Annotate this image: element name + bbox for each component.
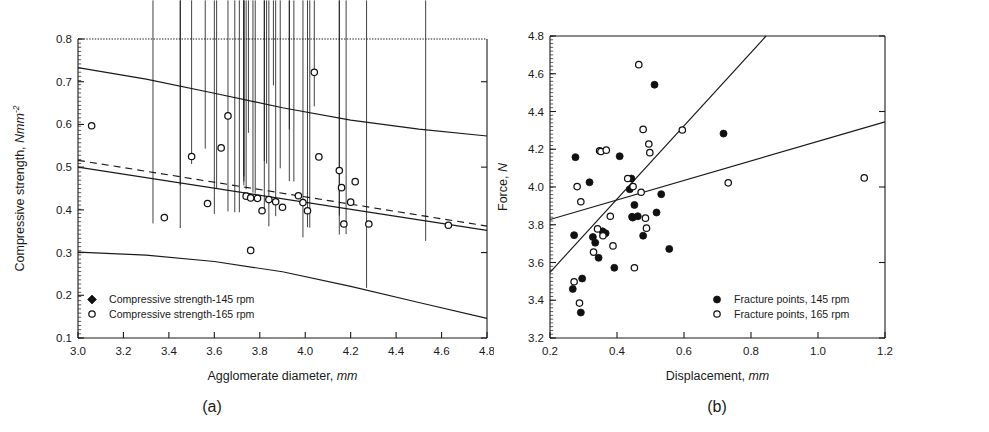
x-axis-title: Agglomerate diameter, mm: [207, 369, 357, 383]
y-tick-label: 3.4: [528, 294, 545, 306]
legend-marker: [89, 311, 95, 317]
data-point: [640, 232, 647, 239]
data-point: [341, 221, 347, 227]
legend-label: Compressive strength-165 rpm: [109, 308, 255, 320]
y-axis-title: Force, N: [496, 162, 510, 211]
legend-label: Compressive strength-145 rpm: [109, 293, 255, 305]
x-tick-label: 0.4: [609, 345, 626, 357]
x-axis-title: Displacement, mm: [666, 369, 770, 383]
data-point: [336, 167, 342, 173]
compressive-strength-scatter-chart: 0.10.20.30.40.50.60.70.83.03.23.43.63.84…: [0, 0, 494, 432]
x-tick-label: 0.6: [676, 345, 692, 357]
data-point: [300, 199, 306, 205]
y-tick-label: 0.3: [56, 247, 72, 259]
data-point: [247, 195, 253, 201]
regression-165rpm-shallow: [550, 122, 885, 220]
x-tick-label: 1.2: [877, 345, 893, 357]
y-tick-label: 0.7: [56, 76, 72, 88]
figure-container: 0.10.20.30.40.50.60.70.83.03.23.43.63.84…: [0, 0, 989, 432]
data-point: [679, 127, 685, 133]
x-tick-label: 3.8: [252, 345, 268, 357]
data-point: [272, 199, 278, 205]
y-tick-label: 0.8: [56, 33, 72, 45]
data-point: [266, 196, 272, 202]
legend-label: Fracture points, 145 rpm: [734, 293, 850, 305]
data-point: [666, 245, 673, 252]
svg-text:Force, N: Force, N: [496, 162, 510, 211]
data-point: [88, 123, 94, 129]
data-point: [586, 179, 593, 186]
data-point: [611, 264, 618, 271]
data-point: [577, 309, 584, 316]
y-tick-label: 3.6: [528, 257, 544, 269]
data-point: [603, 147, 609, 153]
data-point: [653, 209, 660, 216]
panel-a-caption: (a): [202, 398, 222, 415]
data-point: [720, 130, 727, 137]
chart-panel-b: 3.23.43.63.84.04.24.44.64.80.20.40.60.81…: [495, 0, 989, 432]
data-point: [571, 232, 578, 239]
data-point: [642, 215, 648, 221]
data-point: [247, 247, 253, 253]
y-tick-label: 4.0: [528, 181, 544, 193]
data-point: [607, 213, 613, 219]
force-displacement-scatter-chart: 3.23.43.63.84.04.24.44.64.80.20.40.60.81…: [495, 0, 989, 432]
y-axis-title: Compressive strength, Nmm-2: [11, 105, 27, 271]
data-point: [204, 200, 210, 206]
data-point: [576, 300, 582, 306]
series-2: [88, 69, 451, 254]
data-point: [316, 154, 322, 160]
data-point: [569, 285, 576, 292]
data-point: [161, 214, 167, 220]
y-tick-label: 0.4: [56, 204, 73, 216]
y-tick-label: 0.6: [56, 118, 72, 130]
y-tick-label: 3.8: [528, 219, 544, 231]
chart-legend: Fracture points, 145 rpmFracture points,…: [714, 293, 850, 320]
data-point: [574, 183, 580, 189]
data-point: [631, 201, 638, 208]
data-point: [254, 195, 260, 201]
data-point: [579, 275, 586, 282]
data-point: [625, 175, 631, 181]
data-point: [188, 153, 194, 159]
chart-panel-a: 0.10.20.30.40.50.60.70.83.03.23.43.63.84…: [0, 0, 494, 432]
data-point: [225, 113, 231, 119]
data-point: [259, 208, 265, 214]
x-tick-label: 0.2: [542, 345, 558, 357]
data-point: [616, 153, 623, 160]
data-point: [861, 175, 867, 181]
data-point: [304, 208, 310, 214]
legend-marker: [88, 295, 97, 304]
x-tick-label: 3.6: [206, 345, 222, 357]
data-point: [638, 189, 644, 195]
data-point: [445, 222, 451, 228]
chart-legend: Compressive strength-145 rpmCompressive …: [88, 293, 255, 320]
y-tick-label: 4.2: [528, 143, 544, 155]
x-tick-label: 0.8: [743, 345, 759, 357]
series-1: [569, 81, 727, 316]
data-point: [600, 233, 606, 239]
x-tick-label: 4.0: [297, 345, 313, 357]
x-tick-label: 4.6: [434, 345, 450, 357]
data-point: [647, 149, 653, 155]
data-point: [630, 183, 636, 189]
data-point: [311, 69, 317, 75]
x-tick-label: 3.0: [70, 345, 86, 357]
x-tick-label: 3.4: [161, 345, 178, 357]
data-point: [218, 145, 224, 151]
legend-marker: [714, 311, 720, 317]
y-tick-label: 4.6: [528, 68, 544, 80]
data-point: [651, 81, 658, 88]
y-tick-label: 3.2: [528, 332, 544, 344]
data-point: [571, 279, 577, 285]
panel-b-caption: (b): [707, 398, 727, 415]
x-tick-label: 4.4: [388, 345, 405, 357]
data-point: [338, 184, 344, 190]
y-tick-label: 0.2: [56, 289, 72, 301]
data-point: [295, 193, 301, 199]
data-point: [366, 221, 372, 227]
x-tick-label: 3.2: [115, 345, 131, 357]
legend-marker: [714, 296, 721, 303]
data-point: [643, 225, 649, 231]
data-point: [279, 204, 285, 210]
